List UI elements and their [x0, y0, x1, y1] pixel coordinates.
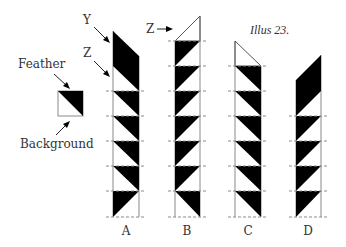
column-c: [228, 41, 268, 217]
feather-label: Feather: [18, 57, 66, 71]
y-label: Y: [82, 13, 92, 27]
column-a: [106, 31, 146, 217]
column-b: [168, 16, 207, 217]
z-label-b: Z: [146, 22, 154, 36]
z-label-a: Z: [83, 46, 91, 60]
column-label-d: D: [303, 224, 313, 238]
column-d: [289, 55, 328, 217]
z-arrow-icon-a: [94, 61, 110, 77]
column-label-c: C: [243, 224, 252, 238]
background-arrow-icon: [56, 121, 70, 135]
z-arrow-icon-b: [157, 26, 173, 32]
legend-square: [58, 91, 83, 116]
quilt-diagram: Illus 23. Feather Background Y Z Z: [0, 0, 346, 247]
column-label-b: B: [183, 224, 192, 238]
illustration-title: Illus 23.: [249, 23, 289, 37]
y-arrow-icon: [94, 27, 110, 43]
background-label: Background: [20, 137, 94, 151]
feather-arrow-icon: [54, 74, 70, 89]
column-label-a: A: [121, 224, 131, 238]
